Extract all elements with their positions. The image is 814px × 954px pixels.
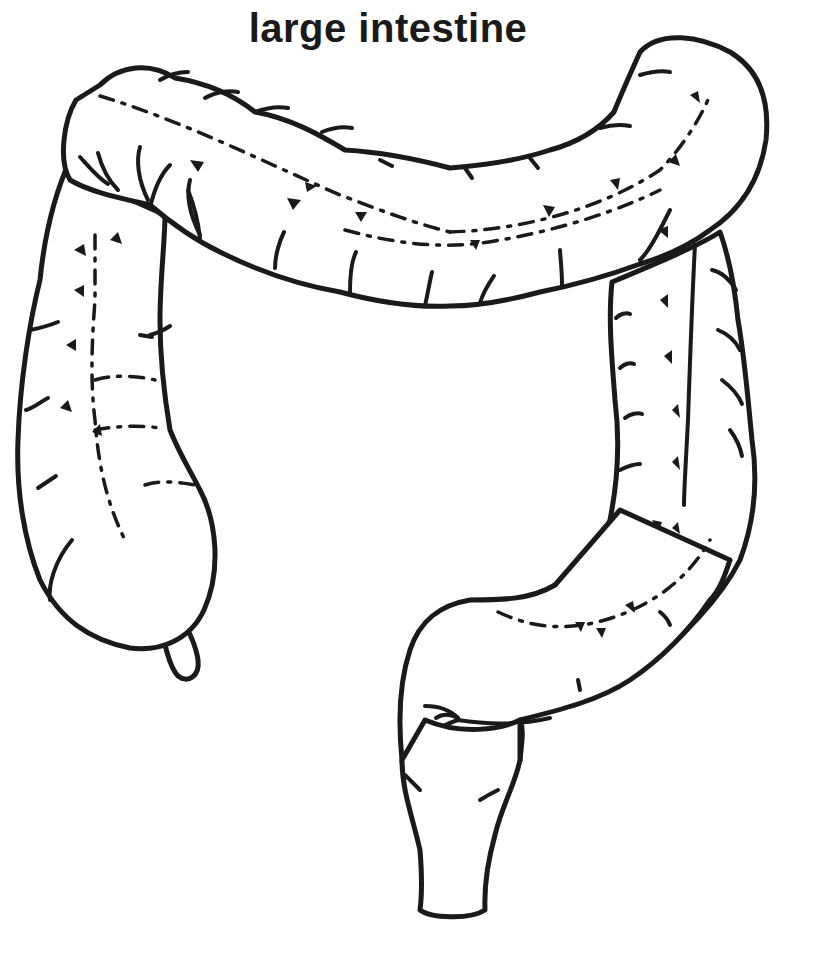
- rectum: [402, 720, 520, 917]
- large-intestine-illustration: [0, 0, 814, 954]
